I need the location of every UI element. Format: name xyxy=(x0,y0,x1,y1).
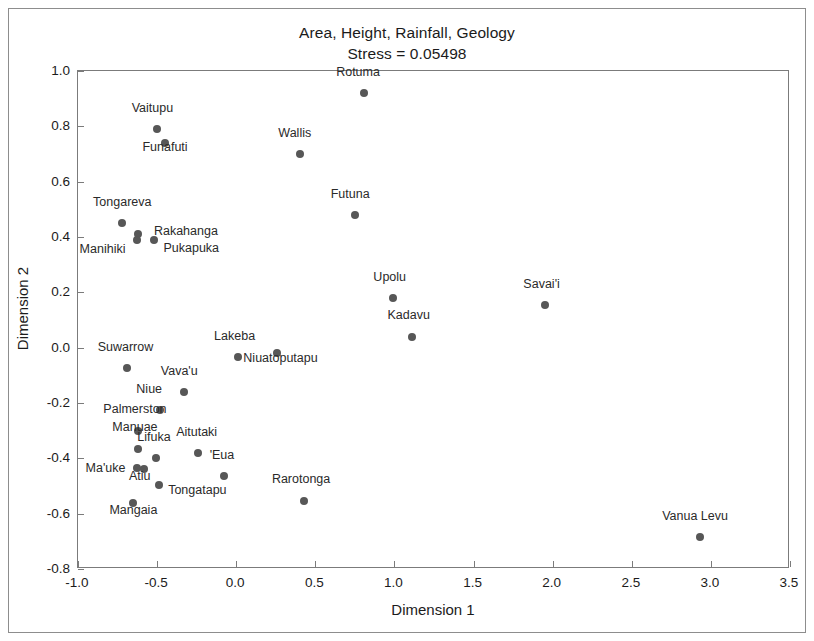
point-label: Wallis xyxy=(278,126,311,139)
point-label: Vava'u xyxy=(161,364,198,377)
point-label: Lifuka xyxy=(137,431,170,444)
y-tick-label: 1.0 xyxy=(26,63,70,78)
chart-title: Area, Height, Rainfall, Geology xyxy=(0,22,814,43)
point-label: Atiu xyxy=(129,469,151,482)
point-label: Niuatoputapu xyxy=(243,352,317,365)
point-label: Aitutaki xyxy=(176,425,217,438)
point-label: Ma'uke xyxy=(86,462,126,475)
point-label: Mangaia xyxy=(109,504,157,517)
y-tick-label: 0.2 xyxy=(26,284,70,299)
x-tick-label: 1.5 xyxy=(463,575,482,590)
point-label: Niue xyxy=(136,382,162,395)
y-tick-label: 0.4 xyxy=(26,229,70,244)
point-label: Vaitupu xyxy=(132,101,173,114)
point-label: Upolu xyxy=(373,270,406,283)
title-block: Area, Height, Rainfall, Geology Stress =… xyxy=(0,22,814,65)
point-label: Kadavu xyxy=(387,309,429,322)
y-tick-label: 0.6 xyxy=(26,173,70,188)
point-label: Lakeba xyxy=(214,330,255,343)
point-label: Savai'i xyxy=(523,277,559,290)
point-label: Rotuma xyxy=(336,65,380,78)
point-label: Tongareva xyxy=(93,195,151,208)
y-tick xyxy=(78,569,84,570)
point-label: Rarotonga xyxy=(272,473,330,486)
point-label: Manihiki xyxy=(80,243,126,256)
point-label: Pukapuka xyxy=(163,241,219,254)
point-label: Rakahanga xyxy=(154,224,218,237)
point-labels-layer: RotumaVaitupuFunafutiWallisFutunaTongare… xyxy=(78,71,788,567)
x-tick-label: 2.5 xyxy=(621,575,640,590)
x-tick-label: -0.5 xyxy=(144,575,167,590)
x-axis-label: Dimension 1 xyxy=(77,601,789,618)
y-tick-label: -0.6 xyxy=(26,505,70,520)
x-tick-label: 3.5 xyxy=(780,575,799,590)
y-tick-label: -0.8 xyxy=(26,561,70,576)
x-tick-label: 2.0 xyxy=(542,575,561,590)
x-tick-label: 3.0 xyxy=(700,575,719,590)
y-tick-label: -0.4 xyxy=(26,450,70,465)
x-tick-label: 0.5 xyxy=(305,575,324,590)
plot-area: RotumaVaitupuFunafutiWallisFutunaTongare… xyxy=(77,70,789,568)
point-label: Suwarrow xyxy=(98,341,154,354)
y-tick-label: -0.2 xyxy=(26,395,70,410)
chart-subtitle-stress: Stress = 0.05498 xyxy=(0,43,814,64)
point-label: Vanua Levu xyxy=(662,509,728,522)
point-label: Futuna xyxy=(331,187,370,200)
x-tick xyxy=(790,561,791,567)
y-tick-label: 0.0 xyxy=(26,339,70,354)
x-tick-label: 1.0 xyxy=(384,575,403,590)
x-tick-label: -1.0 xyxy=(65,575,88,590)
y-tick-label: 0.8 xyxy=(26,118,70,133)
point-label: 'Eua xyxy=(210,449,235,462)
point-label: Palmerston xyxy=(103,403,166,416)
point-label: Tongatapu xyxy=(168,483,226,496)
point-label: Funafuti xyxy=(142,140,187,153)
figure-canvas: Area, Height, Rainfall, Geology Stress =… xyxy=(0,0,814,641)
x-tick-label: 0.0 xyxy=(226,575,245,590)
y-axis-label: Dimension 2 xyxy=(14,229,31,389)
